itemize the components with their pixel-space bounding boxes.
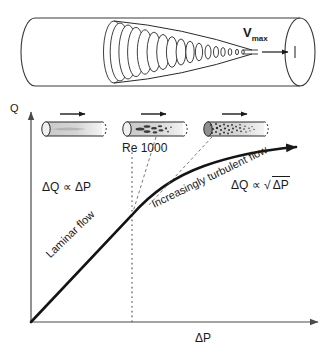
tube-inset-turbulent — [204, 114, 268, 136]
turbulent-eq-lhs: ΔQ — [231, 178, 248, 192]
proportional-icon: ∝ — [63, 180, 72, 194]
tube-right-cap-transitional — [183, 122, 187, 136]
tube-inset-transitional — [123, 114, 187, 136]
laminar-equation: ΔQ ∝ ΔP — [42, 181, 91, 193]
proportional-icon: ∝ — [252, 178, 261, 192]
pipe-right-opening — [285, 18, 315, 86]
tube-right-cap-laminar — [102, 122, 106, 136]
tube-right-cap-turbulent — [264, 122, 268, 136]
tube-left-cap-turbulent — [204, 122, 212, 136]
x-axis-label: ΔP — [195, 332, 211, 344]
y-axis-label: Q — [10, 103, 19, 114]
reynolds-threshold-label: Re 1000 — [122, 142, 167, 154]
velocity-profile-rings — [104, 21, 245, 83]
tube-left-cap-transitional — [123, 122, 131, 136]
flow-figure: Vmax Q ΔP Re 1000 ΔQ ∝ ΔP ΔQ ∝ √ΔP Lamin… — [0, 0, 331, 356]
vmax-letter: V — [243, 25, 252, 40]
pipe-left-opening — [21, 18, 35, 86]
laminar-eq-rhs: ΔP — [75, 180, 91, 194]
vmax-subscript: max — [252, 34, 268, 43]
turbulent-eq-rhs: ΔP — [272, 176, 290, 192]
profile-tip — [243, 50, 258, 54]
turbulent-equation: ΔQ ∝ √ΔP — [231, 179, 290, 191]
laminar-eq-lhs: ΔQ — [42, 180, 59, 194]
radical-icon: √ — [264, 178, 271, 192]
tube-left-cap-laminar — [42, 122, 50, 136]
chart-axes — [31, 112, 318, 322]
top-pipe-diagram — [21, 18, 315, 86]
tube-inset-laminar — [42, 114, 106, 136]
vmax-label: Vmax — [243, 26, 268, 43]
